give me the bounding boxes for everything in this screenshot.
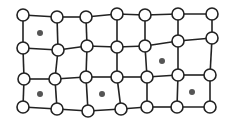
lattice-node <box>111 8 123 20</box>
lattice-node <box>51 103 63 115</box>
lattice-node <box>139 40 151 52</box>
filled-dot <box>99 91 105 97</box>
lattice-node <box>141 71 153 83</box>
lattice-node <box>49 73 61 85</box>
lattice-canvas <box>0 0 231 135</box>
lattice-node <box>111 71 123 83</box>
lattice-node <box>80 11 92 23</box>
lattice-node <box>171 101 183 113</box>
lattice-node <box>17 42 29 54</box>
filled-dot <box>37 91 43 97</box>
lattice-node <box>115 103 127 115</box>
filled-dot <box>189 89 195 95</box>
lattice-node <box>172 69 184 81</box>
lattice-node <box>139 9 151 21</box>
lattice-node <box>82 105 94 117</box>
lattice-diagram <box>0 0 231 135</box>
filled-dot <box>37 30 43 36</box>
edges-layer <box>23 14 212 111</box>
lattice-node <box>206 32 218 44</box>
lattice-node <box>52 44 64 56</box>
lattice-node <box>51 11 63 23</box>
lattice-node <box>17 9 29 21</box>
filled-dot <box>159 58 165 64</box>
lattice-node <box>204 69 216 81</box>
lattice-node <box>18 73 30 85</box>
lattice-node <box>17 101 29 113</box>
lattice-node <box>141 101 153 113</box>
lattice-node <box>111 41 123 53</box>
lattice-node <box>204 101 216 113</box>
lattice-node <box>206 8 218 20</box>
lattice-node <box>172 8 184 20</box>
lattice-node <box>80 71 92 83</box>
lattice-node <box>172 35 184 47</box>
lattice-node <box>81 40 93 52</box>
